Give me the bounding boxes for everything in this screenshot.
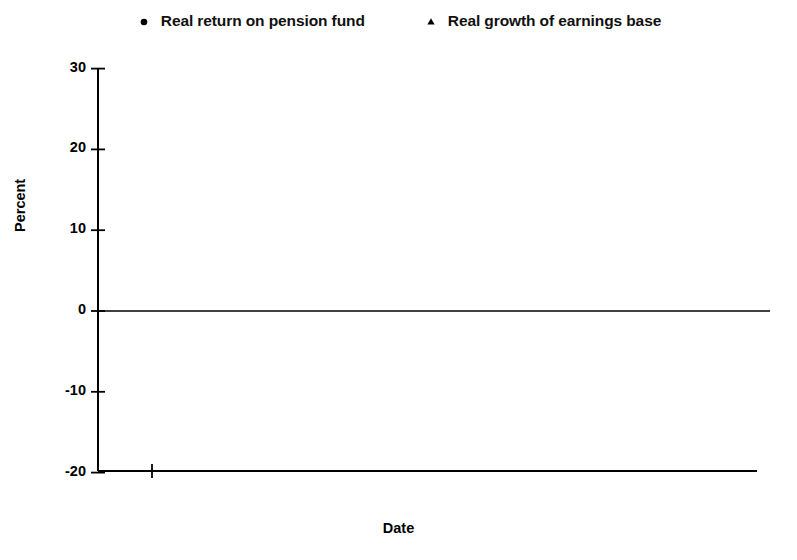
y-tick-label: 30 — [38, 59, 86, 75]
chart-container: Real return on pension fund Real growth … — [0, 0, 797, 560]
axes — [98, 68, 770, 471]
y-tick-label: -20 — [38, 463, 86, 479]
y-tick-label: 0 — [38, 301, 86, 317]
y-axis-title: Percent — [12, 179, 28, 232]
x-axis-title: Date — [0, 520, 797, 536]
plot-area — [0, 0, 797, 560]
y-tick-label: -10 — [38, 382, 86, 398]
y-tick-label: 10 — [38, 220, 86, 236]
y-tick-label: 20 — [38, 139, 86, 155]
